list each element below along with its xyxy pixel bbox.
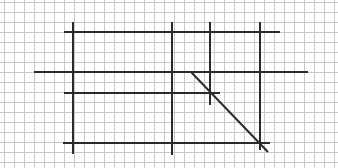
vertical-lines <box>73 22 260 155</box>
line-diagram-on-grid <box>0 0 338 168</box>
